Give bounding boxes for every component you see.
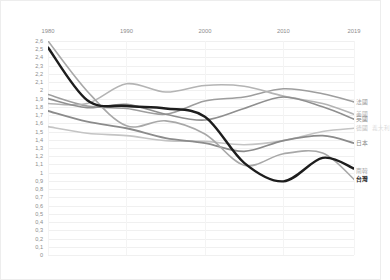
series-lines	[48, 41, 354, 255]
y-axis-tick-label: 1,2	[35, 153, 43, 159]
series-line	[48, 48, 354, 182]
y-axis-tick-label: 0,6	[35, 203, 43, 209]
y-axis-tick-label: 2,4	[35, 54, 43, 60]
y-axis-tick-label: 0,9	[35, 178, 43, 184]
y-axis-tick-label: 2,2	[35, 71, 43, 77]
y-axis-tick-label: 0,3	[35, 227, 43, 233]
y-axis-tick-label: 0,8	[35, 186, 43, 192]
x-axis-tick-label: 2019	[348, 27, 361, 35]
legend-label: 南韓	[356, 168, 368, 175]
y-axis-tick-label: 0,2	[35, 236, 43, 242]
legend-label: 日本	[356, 140, 368, 147]
y-axis-tick-label: 2,1	[35, 79, 43, 85]
y-axis-tick-label: 1,3	[35, 145, 43, 151]
plot-area	[48, 41, 354, 255]
y-axis: 2,62,52,42,32,22,121,91,81,71,61,51,41,3…	[1, 34, 46, 262]
y-axis-tick-label: 1,4	[35, 137, 43, 143]
gridline	[48, 255, 354, 256]
y-axis-tick-label: 0,7	[35, 194, 43, 200]
y-axis-tick-label: 1,6	[35, 120, 43, 126]
y-axis-tick-label: 1,1	[35, 161, 43, 167]
y-axis-tick-label: 0,4	[35, 219, 43, 225]
legend-label: 德國	[356, 125, 368, 132]
series-line	[48, 41, 354, 179]
y-axis-tick-label: 0,1	[35, 244, 43, 250]
x-gridline	[354, 41, 355, 255]
y-axis-tick-label: 1,9	[35, 96, 43, 102]
legend-label: 英國	[356, 116, 368, 123]
y-axis-tick-label: 2	[40, 87, 43, 93]
y-axis-tick-label: 1	[40, 170, 43, 176]
x-axis-tick-label: 2010	[277, 27, 290, 35]
y-axis-tick-label: 0	[40, 252, 43, 258]
y-axis-tick-label: 2,6	[35, 38, 43, 44]
y-axis-tick-label: 1,5	[35, 129, 43, 135]
legend-label: 美國	[356, 111, 368, 118]
y-axis-tick-label: 2,3	[35, 63, 43, 69]
legend-label: 台灣	[356, 176, 368, 183]
x-axis-tick-label: 1990	[120, 27, 133, 35]
x-axis-tick-label: 2000	[198, 27, 211, 35]
y-axis-tick-label: 1,8	[35, 104, 43, 110]
x-axis: 19801990200020102019	[1, 27, 382, 39]
y-axis-tick-label: 1,7	[35, 112, 43, 118]
legend-label-secondary: 義大利	[372, 125, 390, 132]
y-axis-tick-label: 0,5	[35, 211, 43, 217]
y-axis-tick-label: 2,5	[35, 46, 43, 52]
legend-label: 法國	[356, 98, 368, 105]
